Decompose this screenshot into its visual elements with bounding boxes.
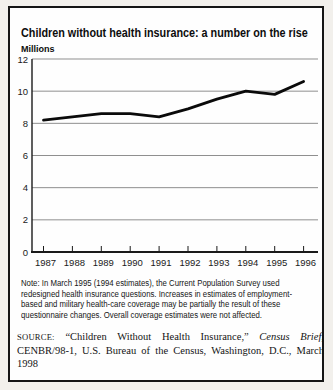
y-tick-label: 2 [23,214,28,225]
note-line: redesigned health insurance questions. I… [21,289,292,300]
source: SOURCE: “Children Without Health Insuran… [17,330,324,371]
line-chart: 0246810121987198819891990199119921993199… [10,8,322,276]
y-tick-label: 12 [17,54,28,65]
source-publication-italic: Census Brief, [259,331,324,342]
y-tick-label: 0 [23,247,28,258]
chart-box: Children without health insurance: a num… [8,6,324,382]
note-line: based and military health-care coverage … [21,299,292,310]
note-line: questionnaire changes. Overall coverage … [21,310,292,321]
x-tick-label: 1989 [93,257,114,268]
x-tick-label: 1996 [295,257,316,268]
x-tick-label: 1991 [151,257,172,268]
note-line: Note: In March 1995 (1994 estimates), th… [21,278,292,289]
note: Note: In March 1995 (1994 estimates), th… [21,278,292,320]
data-line [44,82,304,121]
figure-caption-partial: FIGURE 4.1 [2,0,92,4]
page: FIGURE 4.1 Children without health insur… [0,0,333,390]
x-tick-label: 1993 [208,257,229,268]
figure-caption-text: FIGURE 4.1 [2,3,67,4]
source-prefix: SOURCE: [17,332,55,342]
x-tick-label: 1987 [35,257,56,268]
source-text-after-italic: CENBR/98-1, U.S. Bureau of the Census, W… [17,345,324,369]
y-tick-label: 8 [23,118,28,129]
y-tick-label: 6 [23,150,28,161]
y-tick-label: 10 [17,86,28,97]
x-tick-label: 1995 [266,257,287,268]
x-tick-label: 1994 [237,257,258,268]
x-tick-label: 1988 [64,257,85,268]
x-tick-label: 1992 [179,257,200,268]
x-tick-label: 1990 [122,257,143,268]
source-text-before-italic: “Children Without Health Insurance,” [55,331,260,342]
y-tick-label: 4 [23,182,28,193]
